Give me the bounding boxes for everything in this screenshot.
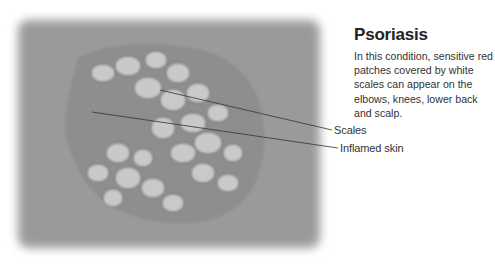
scales-label: Scales [334,124,366,136]
inflamed-skin-label: Inflamed skin [340,142,404,154]
psoriasis-lesion-illustration [58,38,273,228]
description-text: In this condition, sensitive red patches… [354,49,494,120]
lesion-scales-pattern [58,38,273,228]
page-title: Psoriasis [354,25,428,45]
